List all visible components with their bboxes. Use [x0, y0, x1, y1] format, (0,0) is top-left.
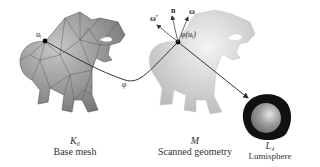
normal-label: n	[171, 6, 175, 15]
omega-prime-label: ω′	[150, 14, 158, 23]
scanned-geometry-caption: M Scanned geometry	[150, 135, 240, 157]
base-mesh-elephant	[20, 12, 125, 112]
scanned-geometry-elephant	[149, 10, 255, 114]
omega-label: ω	[189, 7, 195, 16]
lumisphere-symbol: L₄	[240, 140, 300, 151]
lumisphere-graphic	[243, 94, 291, 140]
base-mesh-symbol: K₀	[40, 135, 110, 146]
point-ui-label: uᵢ	[36, 30, 41, 39]
scanned-geometry-symbol: M	[150, 135, 240, 146]
lumisphere-text: Lumisphere	[240, 151, 300, 162]
base-mesh-text: Base mesh	[40, 146, 110, 157]
point-ui	[43, 39, 48, 44]
scanned-geometry-text: Scanned geometry	[150, 146, 240, 157]
phi-ui-label: φ(uᵢ)	[181, 30, 196, 39]
phi-label: φ	[122, 80, 126, 89]
base-mesh-caption: K₀ Base mesh	[40, 135, 110, 157]
lumisphere-caption: L₄ Lumisphere	[240, 140, 300, 162]
